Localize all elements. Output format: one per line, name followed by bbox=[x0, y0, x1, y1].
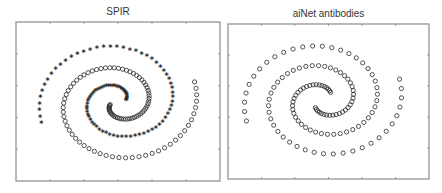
ainet-plot: aiNet antibodies bbox=[0, 0, 442, 193]
antibodies-spiral-1-markers bbox=[242, 44, 379, 137]
antibodies-spiral-2-markers bbox=[266, 64, 403, 157]
ainet-plot-area bbox=[0, 0, 442, 193]
axes-frame bbox=[228, 24, 429, 179]
